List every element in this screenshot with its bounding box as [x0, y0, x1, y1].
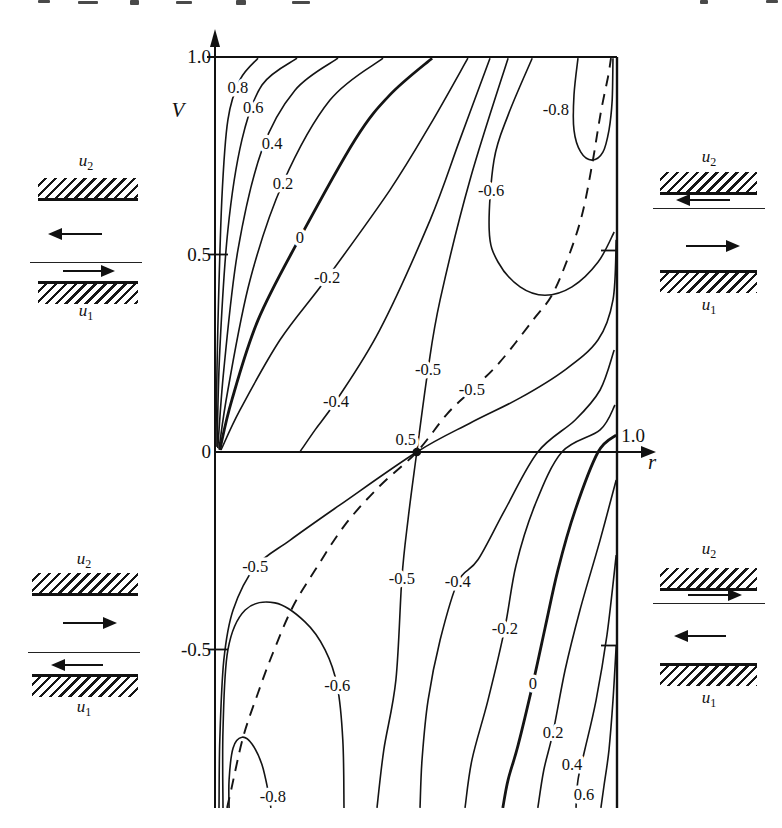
upper-wall-velocity-label: u2	[30, 152, 142, 175]
contour-label: 0	[296, 228, 304, 247]
contour-label: 0.2	[273, 174, 294, 193]
inset-bottom-left: u2 u1	[28, 548, 140, 722]
upper-wall	[32, 573, 138, 596]
upper-layer-flow-arrow	[688, 199, 730, 201]
upper-wall	[660, 172, 757, 195]
inset-top-right: u2 u1	[653, 146, 765, 320]
lower-layer-flow-arrow	[63, 664, 103, 666]
v-axis-tick-label: 0.5	[187, 244, 211, 265]
lower-wall	[660, 663, 757, 686]
contour-label: -0.8	[260, 787, 286, 806]
fluid-interface-line	[30, 262, 142, 263]
v-axis-tick-label: 1.0	[187, 46, 211, 67]
upper-wall	[660, 568, 757, 591]
contour-line-0.6	[601, 645, 616, 808]
figure-container: 0.80.60.40.20-0.2-0.4-0.5-0.5-0.5-0.6-0.…	[0, 0, 782, 828]
contour-label: 0.6	[243, 98, 264, 117]
contour-label: -0.4	[445, 572, 471, 591]
lower-wall	[32, 674, 138, 697]
upper-layer-flow-arrow	[688, 594, 730, 596]
upper-wall	[38, 178, 138, 201]
fluid-interface-line	[653, 603, 765, 604]
contour-label: -0.8	[543, 100, 569, 119]
contour-label: 0.6	[574, 785, 595, 804]
lower-layer-flow-arrow	[686, 245, 728, 247]
lower-wall-velocity-label: u1	[653, 296, 765, 319]
lower-layer-flow-arrow	[63, 270, 103, 272]
contour-label: -0.6	[478, 181, 504, 200]
contour-line--0.6	[223, 602, 344, 808]
arrow-head-icon	[676, 194, 690, 206]
v-axis-arrowhead-icon	[210, 29, 220, 47]
contour-label: 0.4	[562, 755, 583, 774]
lower-wall-velocity-label: u1	[30, 302, 142, 325]
arrow-head-icon	[101, 265, 115, 277]
contour-label: -0.2	[492, 619, 518, 638]
arrow-head-icon	[48, 228, 62, 240]
inset-bottom-right: u2 u1	[653, 538, 765, 712]
contour-label: -0.4	[323, 392, 349, 411]
v-axis-tick-label: 0	[202, 441, 212, 462]
contour-line--0.6	[489, 58, 614, 295]
contour-label: 0.2	[543, 723, 564, 742]
contour-label: -0.5	[242, 557, 268, 576]
contour-label: 0.4	[262, 134, 283, 153]
r-axis-title: r	[648, 450, 657, 474]
arrow-head-icon	[726, 240, 740, 252]
contour-label: 0	[529, 674, 537, 693]
lower-wall	[660, 270, 757, 293]
fluid-interface-line	[653, 208, 765, 209]
v-axis-title: V	[172, 98, 187, 122]
lower-layer-flow-arrow	[686, 635, 726, 637]
contour-label: -0.2	[314, 268, 340, 287]
contour-label: 0.8	[228, 78, 249, 97]
upper-layer-flow-arrow	[60, 233, 102, 235]
contour-line-0	[503, 435, 616, 808]
lower-wall	[38, 281, 138, 304]
contour-label: -0.6	[324, 676, 350, 695]
upper-wall-velocity-label: u2	[653, 148, 765, 171]
arrow-head-icon	[51, 659, 65, 671]
fluid-interface-line	[28, 652, 140, 653]
lower-wall-velocity-label: u1	[28, 698, 140, 721]
arrow-head-icon	[728, 589, 742, 601]
contour-line--0.8	[573, 58, 613, 160]
arrow-head-icon	[103, 617, 117, 629]
contour-label: -0.5	[459, 380, 485, 399]
upper-wall-velocity-label: u2	[653, 540, 765, 563]
r-axis-tick-label: 1.0	[621, 425, 645, 446]
contour-label: -0.5	[415, 360, 441, 379]
upper-wall-velocity-label: u2	[28, 550, 140, 573]
upper-layer-flow-arrow	[63, 622, 105, 624]
contour-label: -0.5	[389, 569, 415, 588]
saddle-point-label: 0.5	[395, 430, 416, 449]
arrow-head-icon	[674, 630, 688, 642]
lower-wall-velocity-label: u1	[653, 689, 765, 712]
v-axis-tick-label: -0.5	[181, 639, 211, 660]
inset-top-left: u2 u1	[30, 150, 142, 324]
